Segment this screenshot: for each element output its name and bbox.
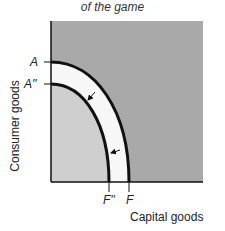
y-axis-label: Consumer goods <box>8 71 22 181</box>
label-f: F <box>126 193 133 207</box>
label-a: A <box>30 55 38 69</box>
label-f2: F'' <box>103 193 115 207</box>
x-axis-label: Capital goods <box>130 210 203 224</box>
label-a2: A'' <box>24 77 37 91</box>
